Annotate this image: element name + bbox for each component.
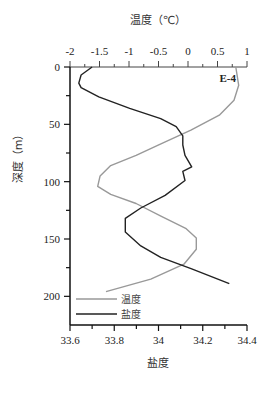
depth-tick-label: 0	[55, 61, 61, 73]
top-tick-label: -1	[124, 45, 133, 57]
depth-tick-label: 50	[49, 118, 61, 130]
top-tick-label: -2	[65, 45, 74, 57]
bottom-tick-label: 33.6	[60, 334, 80, 346]
top-tick-label: -1.5	[91, 45, 109, 57]
legend-label: 盐度	[121, 308, 141, 320]
depth-tick-label: 100	[44, 176, 61, 188]
bottom-axis-title: 盐度	[147, 356, 169, 370]
top-tick-label: 0	[185, 45, 191, 57]
ts-profile-chart: 温度（℃） -2-1.5-1-0.500.51 33.633.83434.234…	[0, 0, 272, 396]
top-axis: -2-1.5-1-0.500.51	[65, 45, 249, 67]
depth-tick-label: 200	[44, 290, 61, 302]
depth-axis: 050100150200	[44, 61, 71, 325]
bottom-axis: 33.633.83434.234.4	[60, 325, 257, 346]
legend: 温度盐度	[76, 293, 141, 320]
bottom-tick-label: 34	[153, 334, 165, 346]
depth-tick-label: 150	[44, 233, 61, 245]
legend-label: 温度	[121, 293, 141, 305]
bottom-tick-label: 34.4	[237, 334, 257, 346]
data-series	[79, 67, 239, 292]
bottom-tick-label: 33.8	[105, 334, 125, 346]
top-tick-label: 1	[244, 45, 250, 57]
top-tick-label: -0.5	[150, 45, 168, 57]
depth-axis-title: 深度（m）	[11, 129, 25, 184]
top-tick-label: 0.5	[211, 45, 225, 57]
temperature-line	[98, 67, 239, 292]
bottom-tick-label: 34.2	[193, 334, 212, 346]
station-label: E-4	[220, 72, 237, 84]
top-axis-title: 温度（℃）	[130, 13, 186, 27]
